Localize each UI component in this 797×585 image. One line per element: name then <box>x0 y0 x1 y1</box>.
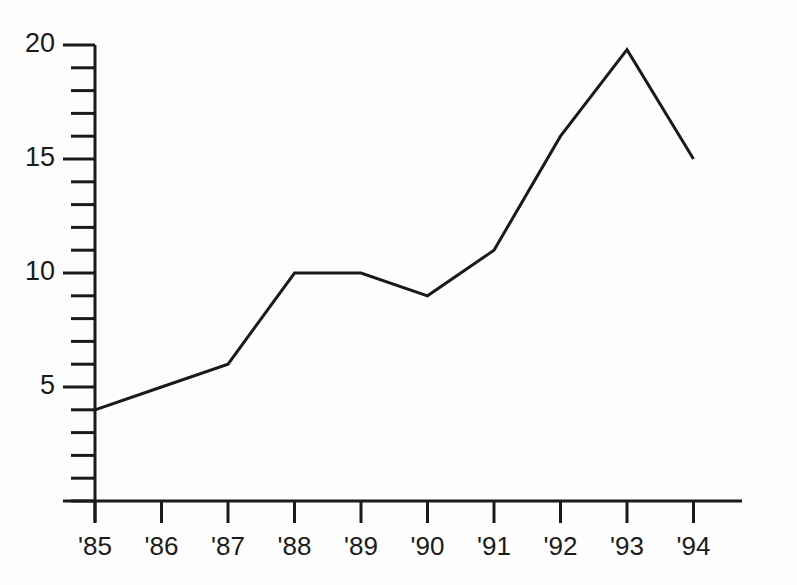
x-axis-ticks <box>95 501 694 523</box>
y-axis-tick-label: 15 <box>25 142 55 173</box>
y-axis-tick-label: 5 <box>40 370 55 401</box>
line-chart: 5101520 '85'86'87'88'89'90'91'92'93'94 <box>0 0 797 585</box>
chart-plot-area <box>0 0 797 585</box>
x-axis-tick-label: '94 <box>649 531 739 562</box>
axis-lines <box>63 45 742 522</box>
data-series-line <box>95 50 694 410</box>
y-axis-ticks <box>63 45 95 501</box>
y-axis-tick-label: 10 <box>25 256 55 287</box>
y-axis-tick-label: 20 <box>25 28 55 59</box>
